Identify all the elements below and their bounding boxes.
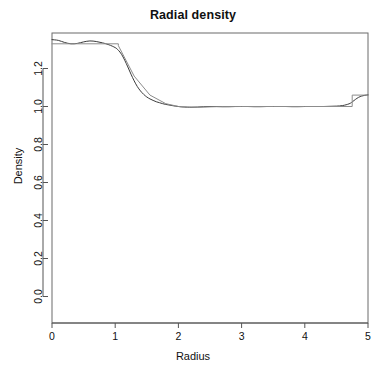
x-tick-label: 0 — [49, 330, 55, 342]
x-tick-label: 4 — [302, 330, 308, 342]
x-tick-label: 2 — [175, 330, 181, 342]
x-axis: 012345 — [49, 323, 371, 342]
y-tick-label: 0.8 — [32, 137, 44, 152]
series-line-smoothed-density — [52, 40, 368, 108]
series-line-step-density — [52, 44, 368, 107]
x-tick-label: 3 — [239, 330, 245, 342]
y-axis: 0.00.20.40.60.81.01.2 — [32, 61, 48, 304]
plot-box — [52, 33, 368, 323]
x-tick-label: 5 — [365, 330, 371, 342]
chart-figure: Radial density Density Radius 012345 0.0… — [0, 0, 386, 374]
data-series-group — [52, 40, 368, 108]
y-tick-label: 0.0 — [32, 289, 44, 304]
y-tick-label: 1.2 — [32, 61, 44, 76]
plot-area: 012345 0.00.20.40.60.81.01.2 — [0, 0, 386, 374]
x-tick-label: 1 — [112, 330, 118, 342]
y-tick-label: 1.0 — [32, 99, 44, 114]
y-tick-label: 0.4 — [32, 213, 44, 228]
y-tick-label: 0.2 — [32, 251, 44, 266]
y-tick-label: 0.6 — [32, 175, 44, 190]
